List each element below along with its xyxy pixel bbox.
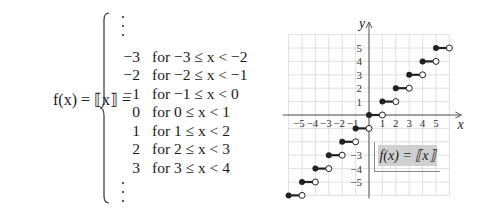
piecewise-row: 3for 3 ≤ x < 4 (112, 159, 230, 177)
open-endpoint (406, 85, 412, 91)
x-tick-label: 1 (380, 117, 386, 129)
piecewise-condition: for −1 ≤ x < 0 (152, 85, 239, 103)
x-tick-label: −5 (293, 117, 305, 129)
open-endpoint (420, 72, 426, 78)
open-endpoint (446, 45, 452, 51)
piecewise-value: 2 (112, 140, 140, 158)
piecewise-row: 1for 1 ≤ x < 2 (112, 122, 230, 140)
closed-endpoint (339, 139, 345, 145)
graph-function-label: f(x) = ⟦x⟧ (378, 145, 437, 166)
open-endpoint (393, 99, 399, 105)
piecewise-row: −2for −2 ≤ x < −1 (112, 66, 247, 84)
x-tick-label: 3 (406, 117, 412, 129)
open-endpoint (299, 192, 305, 198)
piecewise-condition: for 2 ≤ x < 3 (152, 140, 230, 158)
closed-endpoint (366, 112, 372, 118)
closed-endpoint (312, 166, 318, 172)
open-endpoint (339, 152, 345, 158)
y-tick-label: 5 (357, 42, 363, 54)
closed-endpoint (326, 152, 332, 158)
x-tick-label: 5 (433, 117, 439, 129)
closed-endpoint (433, 45, 439, 51)
y-tick-label: 3 (357, 69, 363, 81)
piecewise-value: −1 (112, 85, 140, 103)
piecewise-condition: for 3 ≤ x < 4 (152, 159, 230, 177)
closed-endpoint (379, 99, 385, 105)
closed-endpoint (299, 179, 305, 185)
x-tick-label: 2 (393, 117, 399, 129)
x-tick-label: −2 (333, 117, 345, 129)
closed-endpoint (406, 72, 412, 78)
x-tick-label: −4 (307, 117, 319, 129)
piecewise-value: 0 (112, 103, 140, 121)
piecewise-value: 3 (112, 159, 140, 177)
y-tick-label: −4 (350, 163, 362, 175)
left-brace (100, 12, 110, 204)
piecewise-value: −2 (112, 66, 140, 84)
closed-endpoint (420, 58, 426, 64)
piecewise-condition: for −3 ≤ x < −2 (152, 48, 247, 66)
closed-endpoint (286, 192, 292, 198)
ellipsis-top (122, 16, 126, 43)
step-function-graph: xy−5−4−3−2−11234554321−3−4−5 (270, 0, 477, 213)
open-endpoint (353, 139, 359, 145)
piecewise-condition: for 0 ≤ x < 1 (152, 103, 230, 121)
y-tick-label: 2 (357, 82, 363, 94)
x-axis-label: x (456, 117, 464, 132)
y-tick-label: −3 (350, 149, 362, 161)
piecewise-row: −3for −3 ≤ x < −2 (112, 48, 247, 66)
piecewise-value: −3 (112, 48, 140, 66)
open-endpoint (312, 179, 318, 185)
x-tick-label: 4 (420, 117, 426, 129)
ellipsis-bottom (122, 182, 126, 209)
piecewise-value: 1 (112, 122, 140, 140)
open-endpoint (326, 166, 332, 172)
piecewise-row: 0for 0 ≤ x < 1 (112, 103, 230, 121)
label-shadow-bottom (374, 171, 440, 172)
open-endpoint (366, 125, 372, 131)
piecewise-condition: for −2 ≤ x < −1 (152, 66, 247, 84)
open-endpoint (433, 58, 439, 64)
y-axis-label: y (357, 16, 366, 31)
label-shadow-left (374, 142, 375, 172)
y-tick-label: −5 (350, 176, 362, 188)
x-tick-label: −3 (320, 117, 332, 129)
y-tick-label: 1 (357, 96, 363, 108)
y-tick-label: 4 (357, 55, 363, 67)
piecewise-row: −1for −1 ≤ x < 0 (112, 85, 239, 103)
piecewise-condition: for 1 ≤ x < 2 (152, 122, 230, 140)
open-endpoint (379, 112, 385, 118)
closed-endpoint (393, 85, 399, 91)
closed-endpoint (353, 125, 359, 131)
piecewise-row: 2for 2 ≤ x < 3 (112, 140, 230, 158)
